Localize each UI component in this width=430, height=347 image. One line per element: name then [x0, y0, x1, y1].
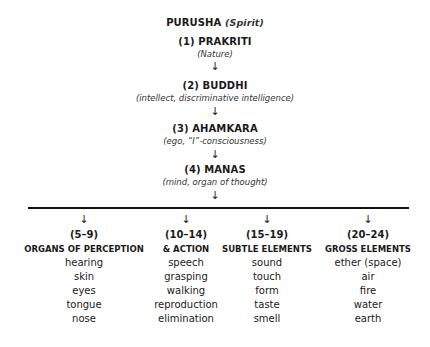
branch-divider — [28, 207, 409, 209]
list-item: earth — [308, 312, 428, 326]
column-heading: GROSS ELEMENTS — [308, 242, 428, 256]
purusha-node: PURUSHA (Spirit) — [0, 17, 430, 28]
manas-label: (4) MANAS — [0, 164, 430, 175]
list-item: air — [308, 270, 428, 284]
down-arrow-icon: ↓ — [0, 149, 430, 160]
down-arrow-icon: ↓ — [0, 190, 430, 201]
column-gross-elements: ↓ (20–24) GROSS ELEMENTS ether (space) a… — [308, 214, 428, 326]
down-arrow-icon: ↓ — [0, 106, 430, 117]
purusha-title: PURUSHA — [166, 17, 221, 28]
column-range: (20–24) — [308, 228, 428, 242]
purusha-gloss: (Spirit) — [225, 17, 264, 28]
list-item: ether (space) — [308, 256, 428, 270]
prakriti-gloss: (Nature) — [0, 49, 430, 59]
ahamkara-label: (3) AHAMKARA — [0, 123, 430, 134]
prakriti-label: (1) PRAKRITI — [0, 36, 430, 47]
down-arrow-icon: ↓ — [0, 61, 430, 72]
buddhi-gloss: (intellect, discriminative intelligence) — [0, 93, 430, 103]
down-arrow-icon: ↓ — [308, 214, 428, 228]
list-item: fire — [308, 284, 428, 298]
buddhi-label: (2) BUDDHI — [0, 80, 430, 91]
manas-gloss: (mind, organ of thought) — [0, 177, 430, 187]
ahamkara-gloss: (ego, “I”-consciousness) — [0, 136, 430, 146]
list-item: water — [308, 298, 428, 312]
